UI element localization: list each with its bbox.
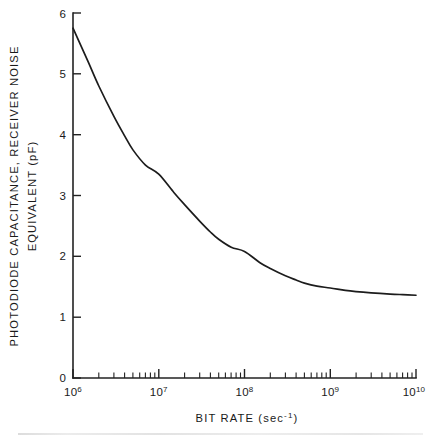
y-ticklabel-0: 0 xyxy=(59,372,66,384)
x-ticklabel-1e9: 109 xyxy=(321,385,339,399)
x-axis-minor-ticks xyxy=(99,373,412,379)
y-ticklabel-4: 4 xyxy=(59,129,66,141)
chart-figure: 0 1 2 3 4 5 6 xyxy=(0,0,441,435)
y-ticklabel-2: 2 xyxy=(59,250,66,262)
y-ticklabel-6: 6 xyxy=(59,8,66,20)
x-ticklabel-1e10: 1010 xyxy=(403,385,426,399)
y-ticklabel-5: 5 xyxy=(59,68,66,80)
x-ticklabel-1e6: 106 xyxy=(64,385,82,399)
y-axis-title-line1: PHOTODIODE CAPACITANCE, RECEIVER NOISE xyxy=(8,45,20,346)
x-ticklabel-1e8: 108 xyxy=(236,385,254,399)
y-ticklabel-1: 1 xyxy=(59,311,66,323)
axis-lines xyxy=(73,13,416,378)
x-axis-title: BIT RATE (sec-1) xyxy=(196,411,299,425)
chart-svg: 0 1 2 3 4 5 6 xyxy=(0,0,441,435)
y-axis-title: PHOTODIODE CAPACITANCE, RECEIVER NOISE E… xyxy=(8,45,38,346)
y-axis-title-line2: EQUIVALENT (pF) xyxy=(26,141,38,252)
data-curve-photodiode-capacitance xyxy=(73,28,416,295)
y-axis-ticks xyxy=(73,13,81,378)
y-ticklabel-3: 3 xyxy=(59,190,66,202)
x-axis-ticklabels: 106 107 108 109 1010 xyxy=(64,385,426,399)
y-axis-ticklabels: 0 1 2 3 4 5 6 xyxy=(59,8,66,385)
x-ticklabel-1e7: 107 xyxy=(150,385,168,399)
